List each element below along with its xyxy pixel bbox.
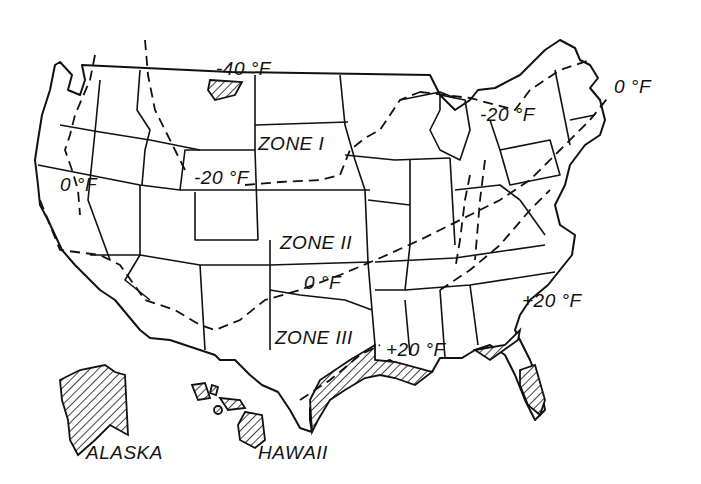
isotherm-label-plus20-atlantic: +20 °F	[522, 290, 582, 312]
isotherm-label-plus20-gulf: +20 °F	[386, 339, 446, 361]
isotherm-label-minus20-west: -20 °F	[194, 167, 249, 189]
southeast-warm-area	[475, 330, 520, 360]
zone-label-1: ZONE I	[258, 133, 324, 155]
zone-label-2: ZONE II	[280, 232, 352, 254]
region-label-alaska: ALASKA	[86, 442, 163, 464]
isotherm-label-minus40: -40 °F	[216, 58, 271, 80]
hawaii-island-4	[214, 406, 222, 414]
hawaii-island-3	[220, 398, 245, 410]
hawaii-island-2	[210, 385, 218, 395]
isotherm-label-0-central: 0 °F	[304, 272, 341, 294]
isotherm-label-0-northeast: 0 °F	[614, 76, 651, 98]
montana-cold-area	[208, 80, 242, 100]
isotherm-label-minus20-east: -20 °F	[480, 104, 535, 126]
zone-label-3: ZONE III	[275, 327, 353, 349]
hawaii-island-1	[192, 383, 210, 400]
isotherm-label-0-west: 0 °F	[60, 174, 97, 196]
florida-warm-area	[520, 365, 545, 415]
region-label-hawaii: HAWAII	[258, 442, 328, 464]
